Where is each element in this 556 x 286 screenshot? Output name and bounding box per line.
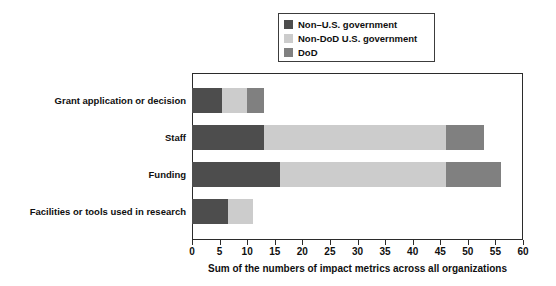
legend-swatch-dod xyxy=(284,48,293,57)
x-axis-tick xyxy=(440,240,441,245)
legend-swatch-non-us-government xyxy=(284,20,293,29)
x-axis-tick xyxy=(275,240,276,245)
x-axis-tick xyxy=(385,240,386,245)
bar-group xyxy=(192,199,523,224)
legend-item-non-dod-us-government: Non-DoD U.S. government xyxy=(284,32,429,45)
bar-segment xyxy=(192,125,264,150)
x-axis-tick-label: 40 xyxy=(407,246,418,257)
stacked-bar-chart-figure: Non–U.S. government Non-DoD U.S. governm… xyxy=(0,0,556,286)
bar-group xyxy=(192,125,523,150)
x-axis-tick-label: 60 xyxy=(517,246,528,257)
x-axis-tick xyxy=(302,240,303,245)
bar-segment xyxy=(192,162,280,187)
x-axis-tick-label: 30 xyxy=(352,246,363,257)
legend-label-dod: DoD xyxy=(298,47,318,58)
x-axis-tick xyxy=(413,240,414,245)
x-axis-tick-label: 25 xyxy=(324,246,335,257)
x-axis-tick xyxy=(330,240,331,245)
bar-segment xyxy=(228,199,253,224)
bar-segment xyxy=(280,162,446,187)
x-axis-tick-label: 55 xyxy=(490,246,501,257)
x-axis-tick-label: 15 xyxy=(269,246,280,257)
chart-legend: Non–U.S. government Non-DoD U.S. governm… xyxy=(278,13,435,62)
y-axis-label: Funding xyxy=(6,169,186,180)
x-axis-title: Sum of the numbers of impact metrics acr… xyxy=(192,263,523,274)
x-axis-tick xyxy=(495,240,496,245)
bar-segment xyxy=(222,88,247,113)
x-axis-tick-label: 50 xyxy=(462,246,473,257)
bar-segment xyxy=(247,88,264,113)
x-axis-tick-label: 45 xyxy=(435,246,446,257)
bar-segment xyxy=(446,125,485,150)
legend-swatch-non-dod-us-government xyxy=(284,34,293,43)
x-axis-tick-labels: 051015202530354045505560 xyxy=(192,246,523,260)
x-axis-tick-label: 5 xyxy=(217,246,223,257)
x-axis-tick-label: 20 xyxy=(297,246,308,257)
x-axis-tick xyxy=(468,240,469,245)
y-axis-label: Facilities or tools used in research xyxy=(6,206,186,217)
bar-group xyxy=(192,88,523,113)
x-axis-tick-label: 35 xyxy=(380,246,391,257)
bar-segment xyxy=(192,199,228,224)
y-axis-label: Grant application or decision xyxy=(6,95,186,106)
y-axis-labels: Grant application or decisionStaffFundin… xyxy=(4,73,186,240)
x-axis-tick xyxy=(358,240,359,245)
x-axis-tick xyxy=(192,240,193,245)
x-axis-tick-label: 10 xyxy=(242,246,253,257)
bar-group xyxy=(192,162,523,187)
bar-segment xyxy=(192,88,222,113)
bar-segment xyxy=(264,125,446,150)
x-axis-tick xyxy=(220,240,221,245)
plot-area xyxy=(192,73,523,240)
legend-label-non-dod-us-government: Non-DoD U.S. government xyxy=(298,33,417,44)
x-axis-tick xyxy=(523,240,524,245)
legend-label-non-us-government: Non–U.S. government xyxy=(298,19,397,30)
y-axis-label: Staff xyxy=(6,132,186,143)
x-axis-tick-label: 0 xyxy=(189,246,195,257)
legend-item-dod: DoD xyxy=(284,46,429,59)
legend-item-non-us-government: Non–U.S. government xyxy=(284,18,429,31)
bar-segment xyxy=(446,162,501,187)
x-axis-tick xyxy=(247,240,248,245)
